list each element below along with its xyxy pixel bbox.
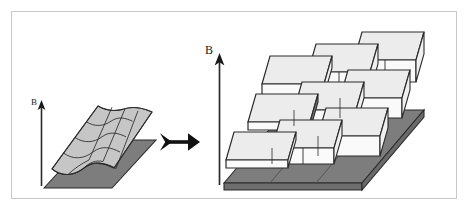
left-axis (38, 100, 46, 186)
figure-canvas (0, 0, 469, 212)
left-panel (38, 100, 156, 188)
left-axis-label: B (31, 98, 37, 107)
figure-root: B B (0, 0, 469, 212)
right-axis (215, 53, 225, 185)
transform-arrow (160, 133, 200, 151)
right-axis-label: B (205, 44, 213, 56)
right-panel (215, 32, 424, 190)
block-front-left (226, 132, 296, 168)
